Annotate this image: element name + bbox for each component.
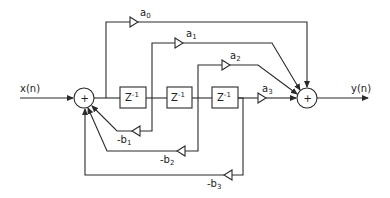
- b3-gain-triangle: [224, 170, 232, 180]
- a2-label: a2: [230, 50, 241, 63]
- b2-label: -b2: [160, 154, 174, 167]
- input-label: x(n): [20, 83, 40, 94]
- sum-in-symbol: +: [81, 93, 89, 104]
- b3-wire: [232, 98, 243, 175]
- a3-label: a3: [262, 83, 273, 96]
- delay-block-1: Z-1: [120, 87, 146, 108]
- b1-label: -b1: [117, 134, 131, 147]
- sum-out-symbol: +: [304, 93, 312, 104]
- a3-gain-triangle: [258, 93, 266, 103]
- b3-label: -b3: [207, 178, 221, 191]
- a2-gain-triangle: [222, 60, 230, 70]
- a1-gain-triangle: [175, 38, 183, 48]
- input-summing-junction: +: [74, 88, 94, 108]
- output-summing-junction: +: [297, 88, 317, 108]
- filter-block-diagram: x(n) + Z-1 Z-1 Z-1 a3 a0 a1 a2 +: [0, 0, 390, 198]
- output-label: y(n): [351, 83, 371, 94]
- a0-label: a0: [140, 7, 151, 20]
- a1-label: a1: [186, 28, 197, 41]
- delay-block-2: Z-1: [167, 87, 192, 108]
- b2-gain-triangle: [177, 146, 185, 156]
- delay-block-3: Z-1: [212, 87, 238, 108]
- b1-gain-triangle: [132, 126, 140, 136]
- a0-gain-triangle: [130, 17, 138, 27]
